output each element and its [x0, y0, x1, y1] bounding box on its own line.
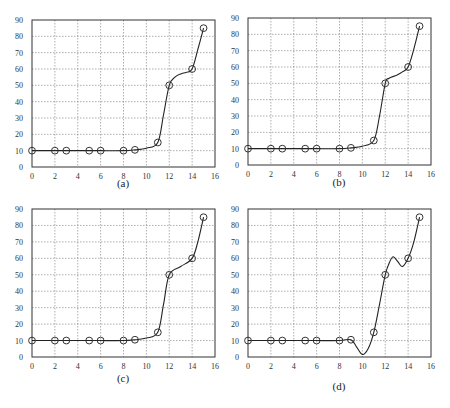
- caption-c: (c): [103, 372, 143, 384]
- x-tick-label: 2: [269, 170, 273, 179]
- caption-a: (a): [103, 177, 143, 189]
- y-tick-label: 60: [15, 65, 23, 74]
- y-tick-label: 10: [15, 147, 23, 156]
- x-tick-label: 4: [76, 172, 80, 181]
- y-tick-label: 40: [231, 96, 239, 105]
- y-tick-label: 40: [15, 98, 23, 107]
- x-tick-label: 6: [99, 362, 103, 371]
- y-tick-label: 20: [231, 320, 239, 329]
- x-tick-label: 0: [246, 170, 250, 179]
- y-tick-label: 90: [231, 14, 239, 23]
- y-tick-label: 60: [231, 254, 239, 263]
- x-tick-label: 4: [292, 362, 296, 371]
- y-tick-label: 0: [19, 353, 23, 362]
- x-tick-label: 10: [358, 362, 366, 371]
- grid: [248, 209, 431, 357]
- caption-b: (b): [319, 176, 359, 188]
- y-tick-label: 80: [231, 30, 239, 39]
- series-curve: [32, 28, 204, 151]
- y-tick-label: 50: [15, 81, 23, 90]
- y-tick-label: 30: [15, 304, 23, 313]
- chart-panel-c: 02468101214160102030405060708090 (c): [0, 204, 225, 408]
- y-tick-label: 70: [15, 238, 23, 247]
- x-tick-label: 0: [246, 362, 250, 371]
- series-curve: [248, 26, 420, 149]
- y-tick-label: 20: [15, 320, 23, 329]
- y-tick-label: 50: [15, 271, 23, 280]
- y-tick-label: 10: [231, 145, 239, 154]
- x-tick-label: 4: [76, 362, 80, 371]
- y-tick-label: 30: [15, 114, 23, 123]
- x-tick-label: 12: [165, 362, 173, 371]
- chart-panel-d: 02468101214160102030405060708090 (d): [225, 204, 450, 408]
- x-tick-label: 2: [53, 362, 57, 371]
- y-tick-label: 90: [15, 205, 23, 214]
- x-tick-label: 14: [404, 362, 412, 371]
- x-tick-label: 14: [404, 170, 412, 179]
- chart-a: 02468101214160102030405060708090: [0, 0, 225, 204]
- y-tick-label: 60: [15, 254, 23, 263]
- y-tick-label: 80: [15, 221, 23, 230]
- y-tick-label: 40: [15, 287, 23, 296]
- x-tick-label: 6: [315, 362, 319, 371]
- x-tick-label: 14: [188, 362, 196, 371]
- y-tick-label: 10: [15, 337, 23, 346]
- y-tick-label: 0: [235, 161, 239, 170]
- x-tick-label: 16: [211, 172, 219, 181]
- x-tick-label: 16: [427, 362, 435, 371]
- series-curve: [32, 217, 204, 340]
- x-tick-label: 10: [142, 172, 150, 181]
- grid: [32, 209, 215, 357]
- x-tick-label: 2: [53, 172, 57, 181]
- caption-d: (d): [319, 380, 359, 392]
- x-tick-label: 0: [30, 172, 34, 181]
- y-tick-label: 90: [15, 16, 23, 25]
- grid: [248, 18, 431, 165]
- chart-b: 02468101214160102030405060708090: [225, 0, 450, 204]
- y-tick-label: 20: [15, 130, 23, 139]
- y-tick-label: 20: [231, 128, 239, 137]
- x-tick-label: 14: [188, 172, 196, 181]
- y-tick-label: 80: [15, 32, 23, 41]
- y-tick-label: 10: [231, 337, 239, 346]
- chart-panel-b: 02468101214160102030405060708090 (b): [225, 0, 450, 204]
- x-tick-label: 16: [211, 362, 219, 371]
- y-tick-label: 80: [231, 221, 239, 230]
- y-tick-label: 50: [231, 79, 239, 88]
- y-tick-label: 90: [231, 205, 239, 214]
- series-curve: [248, 217, 420, 354]
- x-tick-label: 12: [165, 172, 173, 181]
- y-tick-label: 30: [231, 304, 239, 313]
- chart-panel-a: 02468101214160102030405060708090 (a): [0, 0, 225, 204]
- x-tick-label: 16: [427, 170, 435, 179]
- y-tick-label: 50: [231, 271, 239, 280]
- x-tick-label: 8: [338, 362, 342, 371]
- x-tick-label: 0: [30, 362, 34, 371]
- x-tick-label: 12: [381, 362, 389, 371]
- x-tick-label: 12: [381, 170, 389, 179]
- x-tick-label: 4: [292, 170, 296, 179]
- y-tick-label: 0: [19, 163, 23, 172]
- y-tick-label: 70: [231, 238, 239, 247]
- y-tick-label: 70: [231, 47, 239, 56]
- data-point-marker: [200, 25, 207, 32]
- y-tick-label: 60: [231, 63, 239, 72]
- x-tick-label: 8: [122, 362, 126, 371]
- x-tick-label: 2: [269, 362, 273, 371]
- x-tick-label: 10: [142, 362, 150, 371]
- y-tick-label: 40: [231, 287, 239, 296]
- x-tick-label: 10: [358, 170, 366, 179]
- y-tick-label: 70: [15, 49, 23, 58]
- grid: [32, 20, 215, 167]
- y-tick-label: 30: [231, 112, 239, 121]
- chart-d: 02468101214160102030405060708090: [225, 204, 450, 408]
- y-tick-label: 0: [235, 353, 239, 362]
